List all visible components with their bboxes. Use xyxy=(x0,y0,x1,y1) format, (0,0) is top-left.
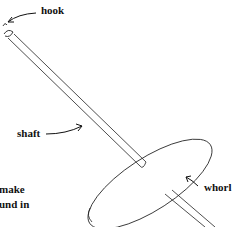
whorl-label: whorl xyxy=(204,181,232,193)
hook-label: hook xyxy=(41,4,64,16)
caption-line-2: und in xyxy=(0,198,29,210)
hook-shape xyxy=(3,24,13,37)
shaft-arrow xyxy=(46,126,82,134)
shaft-label: shaft xyxy=(17,127,40,139)
whorl-shape xyxy=(75,123,224,227)
caption-line-1: make xyxy=(0,183,25,195)
spindle-drawing xyxy=(0,0,238,227)
